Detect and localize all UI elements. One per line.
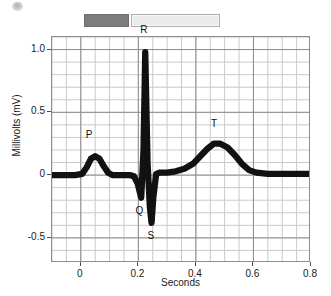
x-tick-label: 0.6: [232, 268, 272, 279]
x-tick-label: 0.2: [117, 268, 157, 279]
x-tick-mark: [80, 262, 81, 266]
y-tick-label: -0.5: [5, 231, 45, 242]
wave-label-q: Q: [135, 205, 143, 216]
y-tick-mark: [47, 174, 51, 175]
wave-label-s: S: [148, 230, 155, 241]
y-tick-mark: [47, 111, 51, 112]
ecg-trace: [52, 37, 310, 262]
wave-label-p: P: [86, 129, 93, 140]
ecg-chart: Millivolts (mV) Seconds PQRST 1.00.50-0.…: [0, 0, 331, 296]
x-tick-mark: [195, 262, 196, 266]
y-tick-mark: [47, 49, 51, 50]
x-tick-mark: [310, 262, 311, 266]
x-tick-label: 0: [60, 268, 100, 279]
y-tick-mark: [47, 237, 51, 238]
y-tick-label: 0: [5, 168, 45, 179]
wave-label-t: T: [211, 118, 217, 129]
x-tick-label: 0.4: [175, 268, 215, 279]
plot-area: [51, 36, 310, 262]
y-axis-title: Millivolts (mV): [11, 76, 22, 176]
x-tick-label: 0.8: [290, 268, 330, 279]
y-tick-label: 1.0: [5, 43, 45, 54]
wave-label-r: R: [140, 24, 147, 35]
x-tick-mark: [252, 262, 253, 266]
y-tick-label: 0.5: [5, 105, 45, 116]
x-tick-mark: [137, 262, 138, 266]
